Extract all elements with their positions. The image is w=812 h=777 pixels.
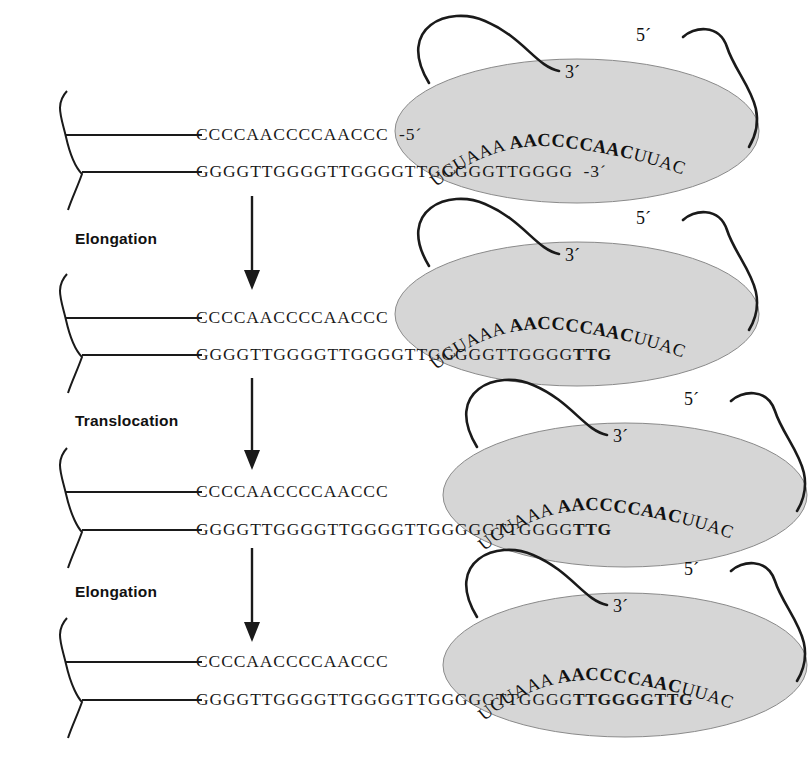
panel-3-bottom-strand-new-bases: TTG: [573, 519, 612, 539]
panel-2-bottom-strand-new-bases: TTG: [573, 344, 612, 364]
arrow-head: [244, 450, 260, 470]
panel-1-bottom-strand-plain: GGGGTTGGGGTTGGGGTTGGGGGTTGGGG: [196, 161, 573, 181]
fork-curve: [60, 448, 82, 568]
panel-1-bottom-strand-end-label: -3´: [573, 161, 607, 181]
panel-2-dna-fork: [52, 273, 206, 400]
step-elongation-2-arrow: [237, 548, 267, 642]
rna-5prime-label: 5´: [684, 389, 699, 409]
fork-curve: [60, 91, 82, 210]
panel-1-bottom-strand: GGGGTTGGGGTTGGGGTTGGGGGTTGGGG -3´: [196, 163, 607, 181]
panel-3-top-strand: CCCCAACCCCAACCC: [196, 483, 388, 501]
panel-4-dna-fork: [52, 617, 206, 745]
rna-5prime-label: 5´: [636, 208, 651, 228]
rna-5prime-label: 5´: [684, 559, 699, 579]
step-elongation-1-label: Elongation: [75, 230, 157, 248]
rna-3prime-label: 3´: [565, 245, 580, 265]
fork-curve: [60, 274, 82, 393]
panel-4-bottom-strand-plain: GGGGTTGGGGTTGGGGTTGGGGGTTGGGG: [196, 689, 573, 709]
step-elongation-1-arrow: [237, 196, 267, 290]
step-translocation-label: Translocation: [75, 412, 178, 430]
panel-2-bottom-strand-plain: GGGGTTGGGGTTGGGGTTGGGGGTTGGGG: [196, 344, 573, 364]
panel-1-top-strand: CCCCAACCCCAACCC -5´: [196, 126, 422, 144]
rna-3prime-label: 3´: [613, 426, 628, 446]
step-translocation-arrow: [237, 378, 267, 470]
panel-2-top-strand-plain: CCCCAACCCCAACCC: [196, 307, 388, 327]
panel-3-bottom-strand-plain: GGGGTTGGGGTTGGGGTTGGGGGTTGGGG: [196, 519, 573, 539]
panel-3-top-strand-plain: CCCCAACCCCAACCC: [196, 481, 388, 501]
panel-4-bottom-strand: GGGGTTGGGGTTGGGGTTGGGGGTTGGGGTTGGGGTTG: [196, 691, 693, 709]
rna-3prime-label: 3´: [565, 62, 580, 82]
panel-1-top-strand-end-label: -5´: [388, 124, 422, 144]
panel-4-top-strand: CCCCAACCCCAACCC: [196, 653, 388, 671]
panel-3-dna-fork: [52, 447, 206, 575]
panel-4-telomerase-enzyme: UCUAAA AACCCCAACUUAC3´5´: [383, 533, 812, 777]
rna-5prime-label: 5´: [636, 25, 651, 45]
panel-1-dna-fork: [52, 90, 206, 217]
panel-4-bottom-strand-new-bases: TTGGGGTTG: [573, 689, 693, 709]
fork-curve: [60, 618, 82, 738]
panel-4-top-strand-plain: CCCCAACCCCAACCC: [196, 651, 388, 671]
panel-2-bottom-strand: GGGGTTGGGGTTGGGGTTGGGGGTTGGGGTTG: [196, 346, 612, 364]
arrow-head: [244, 622, 260, 642]
panel-1-top-strand-plain: CCCCAACCCCAACCC: [196, 124, 388, 144]
arrow-head: [244, 270, 260, 290]
step-elongation-2-label: Elongation: [75, 583, 157, 601]
panel-3-bottom-strand: GGGGTTGGGGTTGGGGTTGGGGGTTGGGGTTG: [196, 521, 612, 539]
panel-2-top-strand: CCCCAACCCCAACCC: [196, 309, 388, 327]
rna-3prime-label: 3´: [613, 596, 628, 616]
